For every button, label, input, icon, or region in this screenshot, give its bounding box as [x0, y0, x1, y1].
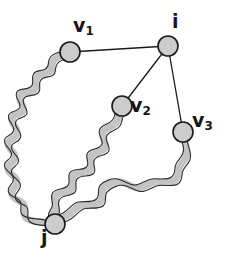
node-label-v2-subscript: 2 — [142, 104, 150, 118]
edges-group — [70, 46, 183, 132]
node-label-v2-text: v — [130, 94, 142, 116]
node-label-v1: v1 — [73, 16, 94, 35]
node-v2[interactable] — [112, 96, 132, 116]
graph-figure: v1 v2 v3 i j — [0, 0, 227, 262]
node-label-i: i — [172, 12, 179, 31]
node-j[interactable] — [45, 214, 65, 234]
node-i[interactable] — [158, 36, 178, 56]
node-v1[interactable] — [60, 42, 80, 62]
graph-canvas — [0, 0, 227, 262]
node-label-v2: v2 — [130, 96, 151, 115]
node-label-v3: v3 — [192, 111, 213, 130]
node-label-v1-subscript: 1 — [85, 24, 93, 38]
node-v3[interactable] — [173, 122, 193, 142]
edge-i-v3 — [168, 46, 183, 132]
node-label-j: j — [41, 228, 48, 247]
edge-i-v1 — [70, 46, 168, 52]
node-label-v1-text: v — [73, 14, 85, 36]
node-label-v3-text: v — [192, 109, 204, 131]
node-label-v3-subscript: 3 — [204, 119, 212, 133]
